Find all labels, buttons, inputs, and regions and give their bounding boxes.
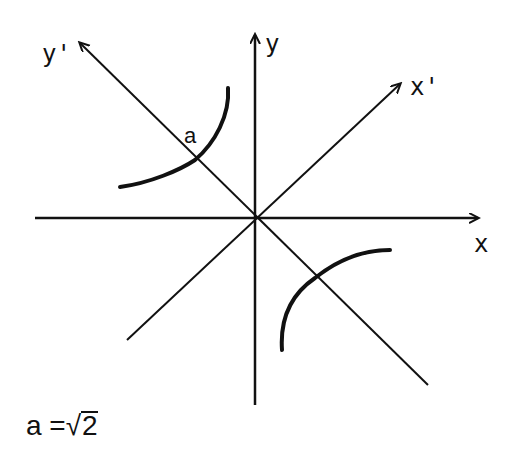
x-prime-label: x' xyxy=(410,73,439,101)
x-label: x xyxy=(474,230,488,258)
equation-op: = xyxy=(49,410,65,441)
diagram-canvas: y' y x' x a xyxy=(0,0,521,451)
hyperbola-branch-lower-right xyxy=(282,250,390,350)
equation-lhs: a xyxy=(26,410,42,441)
vertex-label: a xyxy=(184,123,197,148)
equation: a =√2 xyxy=(26,410,98,442)
y-prime-label: y' xyxy=(42,40,71,68)
equation-radicand: 2 xyxy=(81,411,98,439)
y-label: y xyxy=(265,30,279,58)
x-prime-axis xyxy=(127,84,400,340)
radical-icon: √ xyxy=(66,410,81,441)
